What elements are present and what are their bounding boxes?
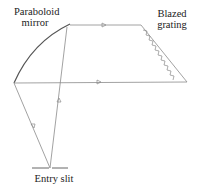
grating-back xyxy=(141,25,187,82)
grating-label: Blazed grating xyxy=(150,8,194,30)
blazed-grating xyxy=(143,30,174,80)
slit-label: Entry slit xyxy=(32,173,76,184)
ray-slit-to-mirror xyxy=(50,27,67,168)
mirror-label: Paraboloid mirror xyxy=(14,6,56,28)
grating-label-line1: Blazed xyxy=(150,8,194,19)
grating-label-line2: grating xyxy=(150,19,194,30)
mirror-label-line2: mirror xyxy=(14,17,56,28)
arrow-up-icon xyxy=(57,98,61,102)
mirror-label-line1: Paraboloid xyxy=(14,6,56,17)
arrow-right-bottom-icon xyxy=(97,80,101,84)
